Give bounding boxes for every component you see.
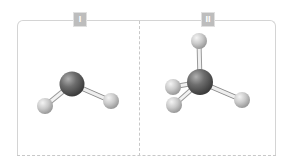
outer-atom — [37, 98, 53, 114]
outer-atom — [191, 33, 207, 49]
molecule-ii — [165, 33, 250, 113]
outer-atom — [234, 92, 250, 108]
molecule-i — [37, 72, 119, 115]
outer-atom — [166, 97, 182, 113]
outer-atom — [103, 93, 119, 109]
center-atom — [187, 69, 213, 95]
outer-atom — [165, 79, 181, 95]
center-atom — [60, 72, 85, 97]
molecule-models — [0, 0, 288, 167]
